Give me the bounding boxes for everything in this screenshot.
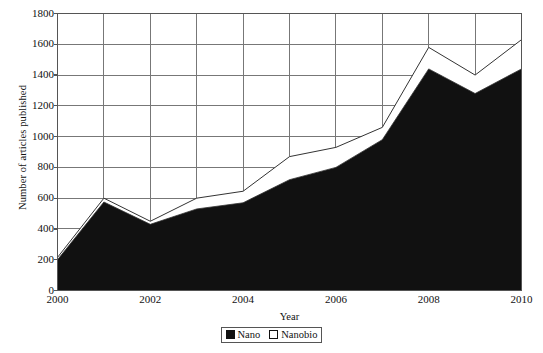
- legend-entry: Nano: [226, 329, 261, 340]
- legend-label: Nanobio: [281, 329, 317, 340]
- legend-label: Nano: [238, 329, 261, 340]
- x-axis-tick-label: 2006: [311, 294, 361, 305]
- x-axis-tick-labels: 200020022004200620082010: [0, 0, 543, 353]
- x-axis-tick-label: 2004: [218, 294, 268, 305]
- x-axis-tick-label: 2000: [33, 294, 83, 305]
- filled-square-icon: [226, 330, 235, 339]
- x-axis-tick-label: 2002: [125, 294, 175, 305]
- chart-area-stacked: Number of articles published 02004006008…: [0, 0, 543, 353]
- chart-legend: NanoNanobio: [0, 327, 543, 343]
- legend-box: NanoNanobio: [221, 327, 323, 343]
- x-axis-tick-label: 2008: [404, 294, 454, 305]
- hollow-square-icon: [269, 330, 278, 339]
- x-axis-title: Year: [57, 311, 522, 322]
- x-axis-tick-label: 2010: [497, 294, 543, 305]
- legend-entry: Nanobio: [269, 329, 317, 340]
